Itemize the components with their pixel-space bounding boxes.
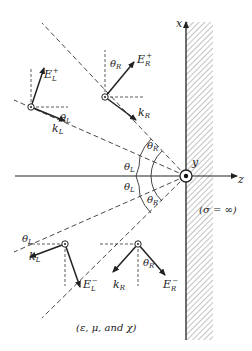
- k-L-upper-label: kL: [52, 122, 64, 136]
- theta-L-bottom-label: θL: [124, 181, 135, 194]
- E-R-minus-label: ER−: [162, 277, 178, 293]
- E-L-plus-label: EL+: [43, 67, 59, 83]
- k-R-lower-label: kR: [113, 278, 126, 292]
- conductor-label: (σ = ∞): [199, 204, 237, 215]
- theta-R-top-label: θR: [147, 140, 159, 153]
- theta-R-upper-label: θR: [110, 58, 122, 71]
- x-axis-label: x: [176, 17, 183, 30]
- medium-label: (ε, μ, and χ): [76, 322, 137, 333]
- z-axis-label: z: [237, 173, 244, 186]
- E-L-minus-label: EL−: [82, 277, 98, 293]
- theta-R-lower-label: θR: [143, 257, 155, 270]
- k-L-lower-label: kL: [29, 250, 41, 264]
- theta-L-top-label: θL: [124, 161, 135, 174]
- dashed-rays: [14, 23, 186, 318]
- reflection-diagram: x y z EL+ θL kL θR ER+ kR θR θL θL θR (σ…: [0, 0, 252, 351]
- E-R-plus-label: ER+: [136, 52, 152, 68]
- theta-L-lower-label: θL: [22, 233, 33, 246]
- reflected-lower: [100, 241, 165, 286]
- theta-L-upper-label: θL: [60, 112, 71, 125]
- y-axis-label: y: [191, 156, 199, 169]
- k-R-upper-label: kR: [138, 106, 151, 120]
